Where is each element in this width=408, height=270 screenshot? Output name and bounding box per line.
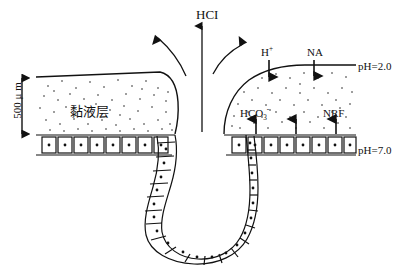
- label-hco3-sub: 3: [263, 114, 267, 122]
- label-h-plus-text: H: [261, 46, 269, 58]
- label-hco3-text: HCO: [240, 107, 263, 119]
- mucus-layer-left: [36, 72, 178, 134]
- curved-arrow-left: [158, 38, 186, 76]
- label-scale: 500 μ m: [12, 71, 23, 131]
- label-h-plus: H+: [261, 46, 273, 58]
- label-na: NA: [307, 47, 323, 58]
- label-nrf: NRF: [323, 108, 344, 119]
- label-ph-top: pH=2.0: [358, 61, 391, 72]
- label-mucus-layer: 黏液层: [70, 105, 109, 118]
- label-hco3-charge: -: [267, 106, 269, 114]
- epithelium-left: [36, 135, 175, 155]
- curved-arrow-right: [213, 44, 243, 74]
- label-hcl: HCI: [196, 8, 218, 21]
- label-ph-bottom: pH=7.0: [358, 145, 391, 156]
- label-h-plus-charge: +: [269, 45, 273, 53]
- label-hco3: HCO3-: [240, 107, 269, 122]
- gastric-mucosa-diagram: HCI H+ NA pH=2.0 HCO3- NRF pH=7.0 黏液层 50…: [0, 0, 408, 270]
- epithelium-right: [224, 135, 356, 155]
- diagram-canvas: [0, 0, 408, 270]
